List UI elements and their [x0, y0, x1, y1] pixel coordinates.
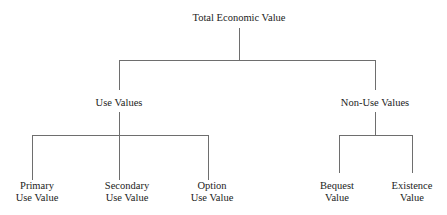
node-existence-value: Existence Value: [392, 180, 433, 204]
node-label: Use Values: [96, 97, 143, 109]
connector-use-values-horizontal: [32, 135, 209, 136]
node-non-use-values: Non-Use Values: [341, 97, 409, 109]
node-label: Non-Use Values: [341, 97, 409, 109]
connector-to-option: [208, 135, 209, 180]
connector-to-primary: [32, 135, 33, 180]
node-label-line2: Use Value: [191, 192, 234, 204]
node-secondary-use-value: Secondary Use Value: [105, 180, 149, 204]
node-use-values: Use Values: [96, 97, 143, 109]
node-label: Total Economic Value: [193, 12, 286, 24]
node-bequest-value: Bequest Value: [320, 180, 354, 204]
connector-to-use-values: [119, 60, 120, 90]
node-label-line1: Existence: [392, 180, 433, 192]
connector-to-bequest: [339, 135, 340, 173]
connector-level1-horizontal: [119, 60, 376, 61]
node-label-line1: Secondary: [105, 180, 149, 192]
node-total-economic-value: Total Economic Value: [193, 12, 286, 24]
node-primary-use-value: Primary Use Value: [16, 180, 59, 204]
node-option-use-value: Option Use Value: [191, 180, 234, 204]
node-label-line1: Bequest: [320, 180, 354, 192]
node-label-line2: Use Value: [16, 192, 59, 204]
connector-non-use-values-down: [375, 112, 376, 135]
connector-to-non-use-values: [375, 60, 376, 90]
node-label-line2: Use Value: [105, 192, 149, 204]
connector-to-existence: [412, 135, 413, 173]
connector-non-use-values-horizontal: [339, 135, 413, 136]
node-label-line1: Primary: [16, 180, 59, 192]
node-label-line2: Value: [392, 192, 433, 204]
connector-root-down: [239, 28, 240, 60]
connector-use-values-down: [119, 112, 120, 135]
connector-to-secondary: [119, 135, 120, 180]
node-label-line1: Option: [191, 180, 234, 192]
node-label-line2: Value: [320, 192, 354, 204]
total-economic-value-diagram: Total Economic Value Use Values Non-Use …: [0, 0, 447, 215]
